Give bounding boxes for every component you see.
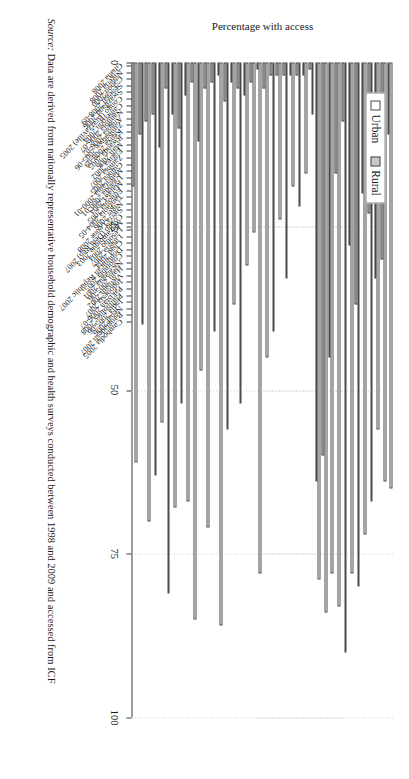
axis-tick bbox=[126, 553, 131, 554]
category-tick bbox=[126, 85, 131, 86]
legend-label-rural: Rural bbox=[369, 170, 381, 196]
bar-rural bbox=[269, 62, 272, 75]
bar-urban bbox=[252, 62, 255, 232]
bar-urban bbox=[154, 62, 157, 475]
category-tick bbox=[126, 183, 131, 184]
category-tick bbox=[126, 203, 131, 204]
bar-rural bbox=[341, 62, 344, 121]
filled-square-icon bbox=[370, 156, 380, 166]
category-tick bbox=[126, 249, 131, 250]
bar-rural bbox=[348, 62, 351, 245]
bar-rural bbox=[217, 62, 220, 75]
bar-rural bbox=[138, 62, 141, 134]
bar-urban bbox=[193, 62, 196, 619]
category-tick bbox=[126, 65, 131, 66]
bar-rural bbox=[249, 62, 252, 82]
bar-rural bbox=[203, 62, 206, 88]
figure-plate: Percentage with access 0255075100 Ghana … bbox=[0, 0, 409, 779]
axis-tick bbox=[126, 390, 131, 391]
category-tick bbox=[126, 98, 131, 99]
bar-rural bbox=[223, 62, 226, 101]
category-tick bbox=[126, 255, 131, 256]
legend-item-rural: Rural bbox=[369, 156, 381, 196]
category-tick bbox=[126, 268, 131, 269]
legend-label-urban: Urban bbox=[369, 114, 381, 143]
bar-urban bbox=[173, 62, 176, 507]
bar-rural bbox=[262, 62, 265, 88]
bar-urban bbox=[206, 62, 209, 527]
axis-tick-label: 75 bbox=[108, 548, 119, 559]
bar-urban bbox=[186, 62, 189, 501]
source-note: Source: Data are derived from nationally… bbox=[44, 18, 57, 764]
bar-urban bbox=[291, 62, 294, 186]
axis-tick bbox=[126, 717, 131, 718]
legend: Urban Rural bbox=[365, 92, 385, 203]
category-tick bbox=[126, 314, 131, 315]
category-tick bbox=[126, 91, 131, 92]
bar-rural bbox=[295, 62, 298, 75]
bar-urban bbox=[265, 62, 268, 357]
bar-urban bbox=[258, 62, 261, 573]
category-tick bbox=[126, 137, 131, 138]
bar-rural bbox=[308, 62, 311, 69]
bar-urban bbox=[147, 62, 150, 521]
bar-urban bbox=[226, 62, 229, 429]
bar-urban bbox=[285, 62, 288, 278]
category-tick bbox=[126, 170, 131, 171]
bar-urban bbox=[239, 62, 242, 403]
bar-rural bbox=[177, 62, 180, 128]
bar-rural bbox=[164, 62, 167, 88]
bar-rural bbox=[144, 62, 147, 121]
axis-tick-label: 100 bbox=[108, 709, 119, 725]
bar-rural bbox=[184, 62, 187, 95]
bar-rural bbox=[334, 62, 337, 173]
bar-rural bbox=[315, 62, 318, 481]
category-tick bbox=[126, 131, 131, 132]
bar-urban bbox=[167, 62, 170, 593]
category-tick bbox=[126, 281, 131, 282]
bar-rural bbox=[282, 62, 285, 75]
bar-rural bbox=[158, 62, 161, 147]
legend-item-urban: Urban bbox=[369, 100, 381, 143]
bar-rural bbox=[321, 62, 324, 455]
bar-rural bbox=[171, 62, 174, 114]
bar-rural bbox=[243, 62, 246, 95]
category-tick bbox=[126, 209, 131, 210]
bar-rural bbox=[361, 62, 364, 193]
category-tick bbox=[126, 124, 131, 125]
bar-rural bbox=[289, 62, 292, 75]
category-tick bbox=[126, 216, 131, 217]
category-tick bbox=[126, 105, 131, 106]
bar-rural bbox=[197, 62, 200, 141]
bars-container bbox=[131, 62, 393, 717]
source-text: Data are derived from nationally represe… bbox=[45, 53, 56, 683]
category-tick bbox=[126, 262, 131, 263]
bar-urban bbox=[232, 62, 235, 304]
bar-urban bbox=[311, 62, 314, 114]
category-tick bbox=[126, 72, 131, 73]
category-tick bbox=[126, 275, 131, 276]
bar-rural bbox=[190, 62, 193, 82]
category-tick bbox=[126, 78, 131, 79]
category-tick bbox=[126, 236, 131, 237]
category-tick bbox=[126, 295, 131, 296]
axis-tick bbox=[126, 62, 131, 63]
bar-rural bbox=[302, 62, 305, 75]
bar-rural bbox=[151, 62, 154, 114]
bar-urban bbox=[344, 62, 347, 652]
category-tick bbox=[126, 229, 131, 230]
bar-rural bbox=[354, 62, 357, 304]
category-tick bbox=[126, 118, 131, 119]
y-axis-label-text: Percentage with access bbox=[211, 20, 312, 32]
category-tick bbox=[126, 164, 131, 165]
axis-tick bbox=[126, 226, 131, 227]
category-tick bbox=[126, 196, 131, 197]
category-tick bbox=[126, 242, 131, 243]
figure: Percentage with access 0255075100 Ghana … bbox=[0, 0, 409, 779]
bar-urban bbox=[213, 62, 216, 331]
axis-tick-label: 50 bbox=[108, 384, 119, 395]
category-tick bbox=[126, 177, 131, 178]
category-tick bbox=[126, 111, 131, 112]
source-label: Source: bbox=[45, 18, 56, 50]
category-tick bbox=[126, 222, 131, 223]
